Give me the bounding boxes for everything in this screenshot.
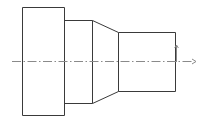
technical-drawing-canvas <box>0 0 203 123</box>
engineering-drawing-svg <box>0 0 203 123</box>
